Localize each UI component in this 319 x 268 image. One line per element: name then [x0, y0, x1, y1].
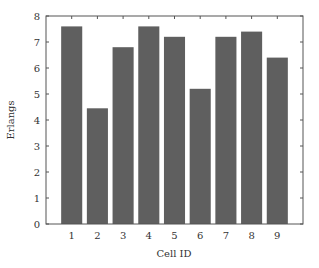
y-tick-label: 1: [34, 193, 40, 204]
bar-cell-8: [241, 32, 262, 224]
bar-chart: 012345678 123456789 Cell ID Erlangs: [0, 0, 319, 268]
y-tick-label: 2: [34, 167, 40, 178]
y-tick-label: 5: [34, 89, 40, 100]
x-tick-label: 3: [120, 230, 126, 241]
y-tick-label: 4: [34, 115, 40, 126]
x-tick-label: 5: [171, 230, 177, 241]
x-tick-label: 2: [94, 230, 100, 241]
y-tick-label: 8: [34, 11, 40, 22]
x-tick-label: 7: [223, 230, 229, 241]
bars: [61, 26, 288, 224]
x-tick-label: 4: [146, 230, 152, 241]
bar-cell-4: [138, 26, 159, 224]
bar-cell-1: [61, 26, 82, 224]
x-tick-label: 6: [197, 230, 203, 241]
bar-cell-6: [190, 89, 211, 224]
bar-cell-3: [113, 47, 134, 224]
x-axis-label: Cell ID: [156, 248, 191, 259]
x-tick-label: 1: [69, 230, 75, 241]
y-tick-label: 6: [34, 63, 40, 74]
bar-cell-2: [87, 108, 108, 224]
x-tick-label: 9: [274, 230, 280, 241]
bar-cell-9: [267, 58, 288, 224]
y-tick-label: 0: [34, 219, 40, 230]
x-tick-label: 8: [248, 230, 254, 241]
y-tick-label: 7: [34, 37, 40, 48]
bar-cell-5: [164, 37, 185, 224]
y-tick-label: 3: [34, 141, 40, 152]
y-axis-label: Erlangs: [5, 100, 16, 139]
bar-cell-7: [215, 37, 236, 224]
